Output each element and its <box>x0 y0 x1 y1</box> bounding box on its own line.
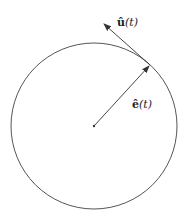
tangent-vector-label: û(t) <box>117 16 138 29</box>
diagram-canvas: û(t) ê(t) <box>0 0 186 218</box>
radial-unit-vector-arrow <box>94 66 149 126</box>
radial-vector-label: ê(t) <box>132 98 152 111</box>
